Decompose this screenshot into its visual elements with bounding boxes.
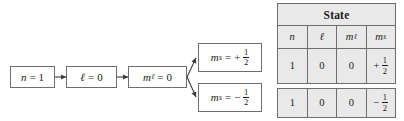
node-ml-equals: = — [157, 72, 163, 83]
state-table: State n ℓ mℓ ms 1 0 0 +12 — [277, 3, 396, 84]
column-header-ms: ms — [367, 26, 396, 48]
node-ms-minus-denominator: 2 — [243, 98, 249, 107]
cell-row2-ms-fraction: 12 — [382, 93, 388, 112]
node-ml-value: 0 — [167, 72, 173, 83]
column-header-ms-symbol: m — [375, 32, 383, 43]
cell-row2-ms: −12 — [367, 89, 396, 117]
column-header-l-symbol: ℓ — [319, 32, 323, 43]
node-ms-plus-sign: + — [234, 52, 240, 63]
node-ml-symbol: m — [143, 72, 151, 83]
cell-row2-n: 1 — [278, 89, 308, 117]
cell-row2-ms-numerator: 1 — [382, 93, 388, 103]
node-n-equals: = — [29, 72, 35, 83]
node-ms-minus: ms=−12 — [198, 83, 262, 112]
cell-row2-ml: 0 — [337, 89, 367, 117]
column-header-n: n — [278, 26, 308, 48]
cell-row1-n: 1 — [278, 49, 308, 83]
node-ms-plus-denominator: 2 — [243, 58, 249, 67]
column-header-ml: mℓ — [337, 26, 367, 48]
cell-row1-ms-fraction: 12 — [382, 56, 388, 75]
state-table-title: State — [278, 4, 395, 26]
node-ms-plus-equals: = — [225, 52, 231, 63]
node-l-value: 0 — [97, 72, 103, 83]
node-ml-subscript: ℓ — [151, 73, 154, 81]
node-ms-minus-fraction: 12 — [243, 88, 249, 107]
column-header-n-symbol: n — [289, 32, 294, 43]
node-ms-minus-symbol: m — [211, 92, 219, 103]
cell-row2-l: 0 — [308, 89, 338, 117]
node-ms-plus-symbol: m — [211, 52, 219, 63]
node-n-value: 1 — [39, 72, 45, 83]
node-ms-plus-fraction: 12 — [243, 48, 249, 67]
arrow-ml-to-ms-plus — [187, 58, 196, 77]
node-ml: mℓ=0 — [128, 66, 187, 88]
cell-row1-ms-numerator: 1 — [382, 56, 388, 66]
cell-row1-ml: 0 — [337, 49, 367, 83]
quantum-state-diagram: n=1 ℓ=0 mℓ=0 ms=+12 ms=−12 State n ℓ mℓ … — [0, 0, 404, 121]
node-ms-plus-subscript: s — [219, 54, 222, 62]
cell-row2-ms-denominator: 2 — [382, 103, 388, 112]
cell-row2-ms-sign: − — [373, 98, 379, 109]
node-ms-minus-subscript: s — [219, 94, 222, 102]
node-l-symbol: ℓ — [80, 72, 85, 83]
node-l: ℓ=0 — [66, 66, 117, 88]
node-n-symbol: n — [21, 72, 27, 83]
node-n: n=1 — [10, 66, 55, 88]
column-header-l: ℓ — [308, 26, 338, 48]
table-row: 1 0 0 −12 — [277, 88, 396, 118]
node-ms-plus-numerator: 1 — [243, 48, 249, 58]
state-table-header-row: n ℓ mℓ ms — [278, 26, 395, 49]
node-ms-minus-numerator: 1 — [243, 88, 249, 98]
column-header-ml-symbol: m — [346, 32, 354, 43]
table-row: 1 0 0 +12 — [278, 49, 395, 83]
node-ms-plus: ms=+12 — [198, 43, 262, 72]
node-ms-minus-equals: = — [225, 92, 231, 103]
cell-row1-ms: +12 — [367, 49, 396, 83]
node-ms-minus-sign: − — [234, 92, 240, 103]
arrow-ml-to-ms-minus — [187, 77, 196, 97]
cell-row1-l: 0 — [308, 49, 338, 83]
column-header-ms-subscript: s — [383, 33, 386, 41]
cell-row1-ms-sign: + — [373, 61, 379, 72]
column-header-ml-subscript: ℓ — [354, 33, 357, 41]
cell-row1-ms-denominator: 2 — [382, 66, 388, 75]
node-l-equals: = — [88, 72, 94, 83]
